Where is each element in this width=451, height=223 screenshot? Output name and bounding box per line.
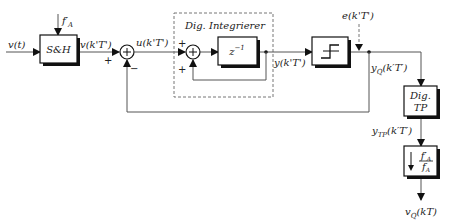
downsampler-block: f′A fA — [404, 146, 440, 179]
quantizer-block — [312, 37, 351, 68]
delay-block: z−1 — [218, 37, 260, 68]
sum1-minus-sign: − — [130, 63, 138, 74]
sum2-plus-top-sign: + — [178, 38, 186, 49]
label-quantized: yQ(k′T′) — [370, 62, 408, 76]
sum2-plus-bottom-sign: + — [178, 64, 186, 75]
dither-arrowhead — [355, 44, 363, 51]
label-sample-rate-in: f′A — [61, 15, 73, 29]
sample-hold-block: S&H — [40, 35, 80, 66]
label-lowpass-out: yTP(k′T′) — [371, 125, 412, 139]
lowpass-label-line1: Dig. — [409, 90, 431, 101]
label-sampled: v(k'T') — [80, 39, 112, 50]
label-output: vQ(kT) — [405, 206, 437, 220]
label-input: v(t) — [8, 39, 26, 50]
label-integrator-in: u(k'T') — [136, 37, 169, 48]
integrator-title: Dig. Integrierer — [184, 20, 266, 31]
sigma-delta-block-diagram: v(t) f′A S&H v(k'T') + − u(k'T') Dig. In… — [0, 0, 451, 223]
lowpass-label-line2: TP — [414, 102, 428, 113]
label-integrator-out: y(k'T') — [273, 57, 306, 68]
label-dither: e(k'T') — [342, 10, 374, 21]
sum1-plus-sign: + — [104, 55, 112, 66]
lowpass-filter-block: Dig. TP — [404, 86, 440, 119]
sample-hold-label: S&H — [46, 44, 71, 55]
summing-junction-1 — [120, 45, 134, 59]
summing-junction-2 — [186, 45, 200, 59]
